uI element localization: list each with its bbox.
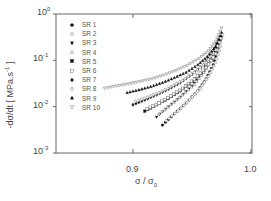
legend-item: SR 6 [62, 66, 100, 75]
filled-triangle-up-marker-icon [62, 94, 80, 102]
y-tick-label: 10-2 [33, 99, 48, 110]
legend-label: SR 4 [82, 49, 96, 56]
legend-item: SR 3 [62, 38, 100, 47]
y-axis-label: -dσ/dt [ MPa.s-1 ] [2, 40, 16, 150]
x-tick-label: 1.0 [244, 164, 257, 174]
legend-item: SR 4 [62, 48, 100, 57]
legend-label: SR 8 [82, 85, 96, 92]
legend-label: SR 10 [82, 104, 100, 111]
legend-label: SR 1 [82, 21, 96, 28]
filled-diamond-marker-icon [62, 76, 80, 84]
legend-label: SR 5 [82, 58, 96, 65]
x-tick-label: 0.9 [126, 164, 139, 174]
x-axis-label: σ / σ0 [135, 176, 157, 188]
legend-item: SR 2 [62, 29, 100, 38]
y-tick-label: 10-1 [33, 52, 48, 63]
open-triangle-down-marker-icon [62, 103, 80, 111]
open-circle-marker-icon [62, 30, 80, 38]
filled-square-marker-icon [62, 57, 80, 65]
open-square-marker-icon [62, 67, 80, 75]
legend-label: SR 3 [82, 39, 96, 46]
open-triangle-up-marker-icon [62, 48, 80, 56]
legend-label: SR 9 [82, 95, 96, 102]
legend-item: SR 1 [62, 20, 100, 29]
legend-item: SR 5 [62, 57, 100, 66]
legend-item: SR 9 [62, 94, 100, 103]
legend-item: SR 7 [62, 75, 100, 84]
filled-triangle-down-marker-icon [62, 39, 80, 47]
legend-item: SR 8 [62, 84, 100, 93]
filled-circle-marker-icon [62, 21, 80, 29]
legend-item: SR 10 [62, 103, 100, 112]
legend-label: SR 6 [82, 67, 96, 74]
legend-label: SR 7 [82, 76, 96, 83]
legend-label: SR 2 [82, 30, 96, 37]
legend: SR 1SR 2SR 3SR 4SR 5SR 6SR 7SR 8SR 9SR 1… [62, 20, 100, 112]
y-tick-label: 100 [37, 6, 50, 17]
open-diamond-marker-icon [62, 85, 80, 93]
data-points [103, 27, 224, 126]
y-tick-label: 10-3 [33, 145, 48, 156]
